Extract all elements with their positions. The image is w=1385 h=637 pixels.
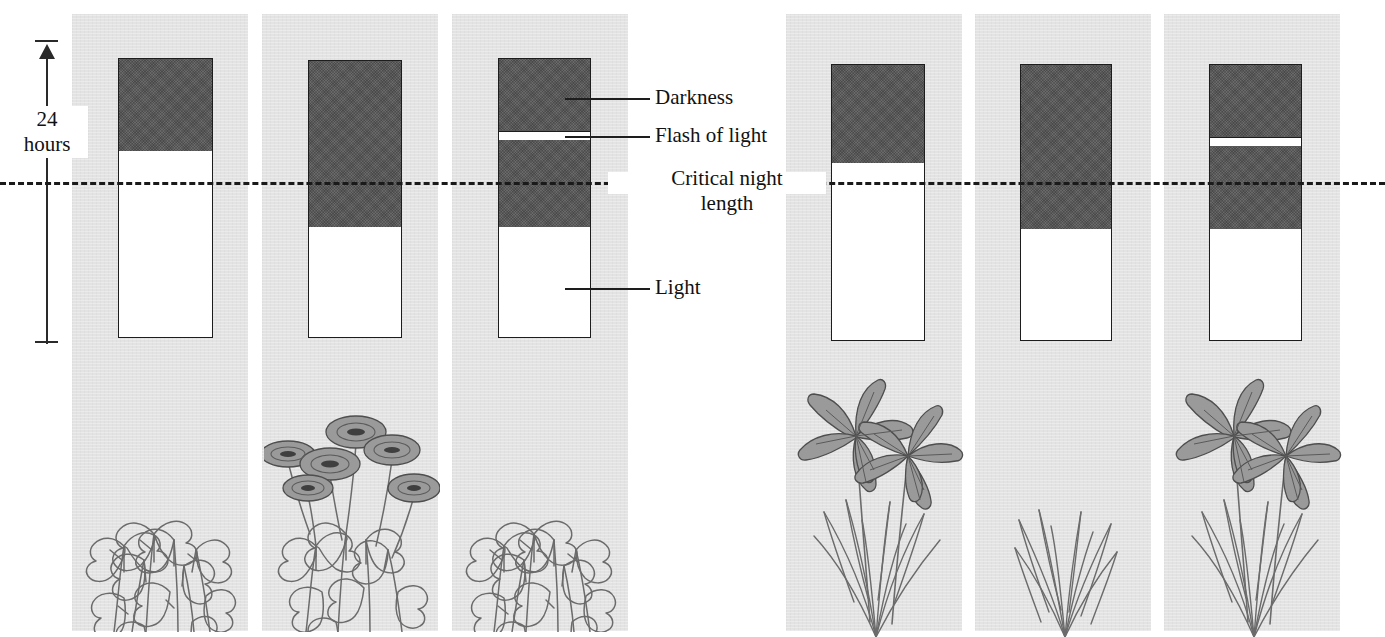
scale-stem <box>46 46 48 344</box>
segment-darkness <box>309 61 401 227</box>
leader-darkness <box>565 98 650 100</box>
label-darkness: Darkness <box>655 85 733 109</box>
segment-darkness <box>832 65 924 163</box>
segment-darkness-upper <box>499 59 590 131</box>
bar-panel-3 <box>498 58 591 338</box>
segment-darkness <box>119 59 212 151</box>
plant-iris-not-flowering-5 <box>977 430 1153 637</box>
segment-darkness-lower <box>1210 146 1301 229</box>
segment-light <box>499 227 590 337</box>
plant-chrysanthemum-not-flowering-1 <box>74 450 250 632</box>
label-light: Light <box>655 275 701 299</box>
plant-iris-flowering-4 <box>788 340 964 637</box>
bar-panel-1 <box>118 58 213 338</box>
plant-chrysanthemum-flowering-2 <box>264 400 440 632</box>
scale-unit: hours <box>6 132 88 157</box>
scale-label: 24 hours <box>6 106 88 158</box>
segment-light <box>832 163 924 340</box>
scale-value: 24 <box>6 107 88 132</box>
plant-chrysanthemum-not-flowering-3 <box>454 450 630 632</box>
scale-24-hours: 24 hours <box>24 38 70 346</box>
scale-top-tick <box>35 40 58 42</box>
segment-light <box>1021 229 1111 340</box>
label-flash-of-light: Flash of light <box>655 123 767 147</box>
label-critical-night-line1: Critical night <box>671 166 782 190</box>
segment-light <box>1210 229 1301 340</box>
segment-darkness <box>1021 65 1111 229</box>
label-critical-night-line2: length <box>701 191 754 215</box>
segment-darkness-upper <box>1210 65 1301 137</box>
segment-light <box>309 227 401 337</box>
bar-panel-5 <box>1020 64 1112 341</box>
scale-bottom-tick <box>35 341 58 343</box>
leader-flash-of-light <box>565 136 650 138</box>
bar-panel-4 <box>831 64 925 341</box>
plant-iris-flowering-6 <box>1166 340 1342 637</box>
label-critical-night-length: Critical night length <box>648 166 806 216</box>
photoperiodism-figure: 24 hours Darkness <box>0 0 1385 637</box>
bar-panel-2 <box>308 60 402 338</box>
segment-light <box>119 151 212 337</box>
leader-light <box>565 288 650 290</box>
bar-panel-6 <box>1209 64 1302 341</box>
